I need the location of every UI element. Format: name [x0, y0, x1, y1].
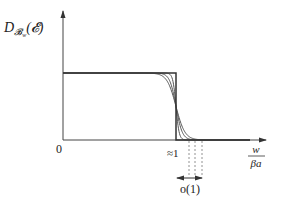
smooth-curves: [63, 73, 250, 140]
dashed-guides: [189, 141, 202, 176]
smooth-curve-3: [63, 73, 250, 140]
width-label: o(1): [180, 182, 200, 196]
x-axis-label: w βa: [248, 143, 265, 169]
threshold-label: ≈1: [167, 147, 179, 159]
step-function: [63, 73, 250, 140]
y-axis-label: D𝓑w(𝓔): [3, 20, 44, 38]
x-axis-label-numerator: w: [252, 143, 260, 155]
origin-label: 0: [56, 142, 62, 156]
step-function-diagram: D𝓑w(𝓔) 0 ≈1 w βa o(1): [0, 0, 281, 205]
smooth-curve-1: [63, 73, 250, 140]
x-axis-label-denominator: βa: [250, 157, 262, 169]
smooth-curve-2: [63, 73, 250, 140]
